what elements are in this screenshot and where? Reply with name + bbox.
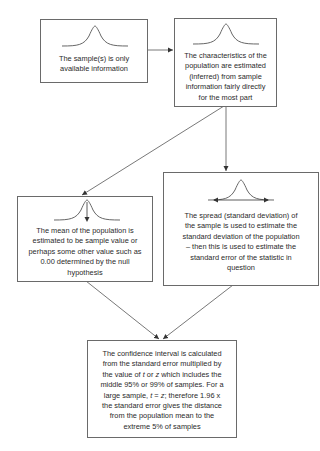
node-confidence-line: middle 95% or 99% of samples. For a xyxy=(90,380,234,390)
normal-curve-icon xyxy=(191,22,261,46)
node-spread-line: The spread (standard deviation) of xyxy=(166,211,316,221)
node-characteristics-line: (inferred) from sample xyxy=(177,72,274,82)
normal-curve-mean-arrow-icon xyxy=(52,198,122,224)
node-confidence-line: the value of t or z which includes the xyxy=(90,370,234,380)
node-characteristics: The characteristics of the population ar… xyxy=(174,18,277,107)
node-spread-line: standard error of the statistic in xyxy=(166,253,316,263)
node-confidence-line: large sample, t = z; therefore 1.96 x xyxy=(90,391,234,401)
node-characteristics-line: for the most part xyxy=(177,93,274,103)
node-confidence-line: extreme 5% of samples xyxy=(90,422,234,432)
node-mean: The mean of the population is estimated … xyxy=(17,196,153,282)
node-mean-line: The mean of the population is xyxy=(20,226,150,236)
node-spread: The spread (standard deviation) of the s… xyxy=(163,172,319,286)
edge-mean-to-confidence xyxy=(86,281,159,339)
node-sample: The sample(s) is only available informat… xyxy=(40,19,148,83)
edge-spread-to-confidence xyxy=(163,285,233,339)
node-sample-line: available information xyxy=(43,64,145,74)
text-run: the value of xyxy=(102,370,142,379)
node-spread-line: the sample is used to estimate the xyxy=(166,221,316,231)
normal-curve-icon xyxy=(60,24,130,48)
text-run: large sample, xyxy=(104,391,150,400)
text-run: ; therefore 1.96 x xyxy=(164,391,220,400)
node-characteristics-line: information fairly directly xyxy=(177,82,274,92)
text-run: or xyxy=(145,370,156,379)
node-spread-line: standard deviation of the population xyxy=(166,232,316,242)
node-spread-line: – then this is used to estimate the xyxy=(166,242,316,252)
node-spread-line: question xyxy=(166,263,316,273)
node-mean-line: 0.00 determined by the null xyxy=(20,257,150,267)
node-sample-line: The sample(s) is only xyxy=(43,54,145,64)
node-characteristics-line: The characteristics of the xyxy=(177,51,274,61)
node-mean-line: estimated to be sample value or xyxy=(20,236,150,246)
node-confidence-line: The confidence interval is calculated xyxy=(90,349,234,359)
node-confidence-line: the standard error gives the distance xyxy=(90,401,234,411)
node-confidence-line: from the population mean to the xyxy=(90,411,234,421)
node-characteristics-line: population are estimated xyxy=(177,61,274,71)
node-mean-line: hypothesis xyxy=(20,268,150,278)
node-confidence-line: from the standard error multiplied by xyxy=(90,359,234,369)
node-mean-line: perhaps some other value such as xyxy=(20,247,150,257)
node-confidence: The confidence interval is calculated fr… xyxy=(87,340,237,438)
normal-curve-spread-arrow-icon xyxy=(206,178,276,206)
text-run: which includes the xyxy=(159,370,221,379)
text-run: = xyxy=(152,391,160,400)
